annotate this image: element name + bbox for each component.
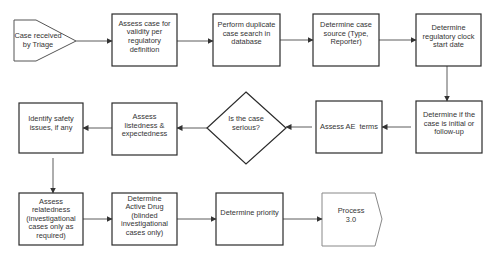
end-node-label: Process 3.0 [322, 193, 380, 239]
node-label-validity: Assess case for validity per regulatory … [112, 14, 177, 60]
decision-label-serious: Is the case serious? [221, 110, 271, 138]
node-label-safety: Identify safety issues, if any [19, 103, 83, 145]
start-node-label: Case received by Triage [12, 20, 70, 61]
node-label-relatedness: Assess relatedness (investigational case… [19, 193, 83, 245]
node-label-duplicate: Perform duplicate case search in databas… [213, 14, 280, 54]
node-label-listedness: Assess listedness & expectedness [112, 103, 177, 149]
node-label-active-drug: Determine Active Drug (blinded investiga… [112, 193, 177, 239]
node-label-source: Determine case source (Type, Reporter) [313, 14, 379, 54]
node-label-priority: Determine priority [216, 193, 283, 233]
node-label-initial: Determine if the case is initial or foll… [416, 101, 482, 147]
node-label-clock: Determine regulatory clock start date [416, 14, 481, 60]
node-label-ae-terms: Assess AE terms [316, 101, 382, 153]
